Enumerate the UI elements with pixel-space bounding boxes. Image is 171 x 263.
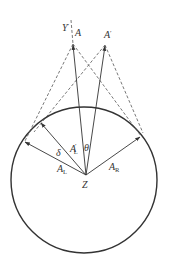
label-delta: δ	[56, 147, 61, 158]
dashed-line-a-right	[73, 44, 141, 136]
label-a-r: AR	[108, 161, 120, 173]
label-z: Z	[82, 179, 88, 190]
vector-a	[73, 45, 86, 175]
label-theta: θ	[84, 142, 89, 153]
label-y-prime: Y′	[62, 22, 70, 33]
label-a-l: AL	[56, 163, 67, 175]
label-a: A	[74, 27, 82, 38]
vector-diagram: Y′ A A′ A′L θ δ AL AR Z	[0, 0, 171, 263]
y-prime-axis	[71, 20, 73, 44]
label-a-prime: A′	[103, 29, 112, 40]
dashed-line-a-prime-right	[105, 45, 143, 133]
label-a-l-prime: A′L	[69, 142, 78, 155]
